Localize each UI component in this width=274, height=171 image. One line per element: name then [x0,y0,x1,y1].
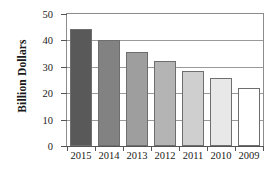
bar-2009 [238,88,260,146]
x-tick-label-2010: 2010 [211,150,232,161]
bar-2014 [98,40,120,146]
x-tick-label-2009: 2009 [239,150,260,161]
x-tick-label-2011: 2011 [183,150,204,161]
x-tick-label-2014: 2014 [99,150,120,161]
x-axis-labels: 2015201420132012201120102009 [66,150,264,168]
bar-2012 [154,61,176,146]
x-tick-label-2012: 2012 [155,150,176,161]
x-tick-label-2013: 2013 [127,150,148,161]
x-tick-label-2015: 2015 [71,150,92,161]
y-axis-title: Billion Dollars [0,0,44,152]
bar-2015 [70,29,92,146]
bar-2013 [126,52,148,147]
y-axis-title-label: Billion Dollars [16,39,28,113]
bar-2010 [210,78,232,146]
bar-2011 [182,71,204,146]
bars-layer [67,14,263,146]
bar-chart: Billion Dollars 01020304050 201520142013… [0,0,274,171]
plot-area: 01020304050 [66,13,264,147]
